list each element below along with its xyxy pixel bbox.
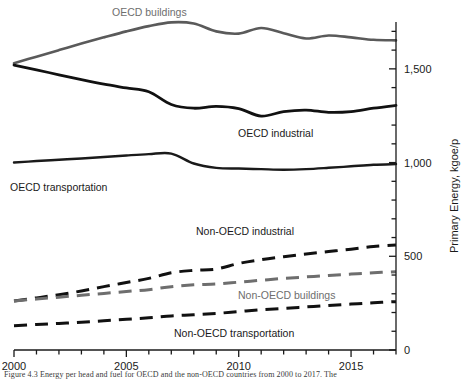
y-axis-tick-label: 0: [404, 344, 410, 356]
series-annotation: OECD transportation: [10, 181, 108, 193]
y-axis-tick-label: 1,000: [404, 157, 432, 169]
series-annotation: Non-OECD transportation: [174, 327, 294, 339]
line-chart: 05001,0001,5002000200520102015 OECD buil…: [0, 0, 468, 379]
series-line-non-oecd-transportation: [14, 302, 396, 326]
series-annotation: Non-OECD industrial: [196, 225, 294, 237]
series-annotation: OECD industrial: [238, 127, 313, 139]
annotation-layer: OECD buildingsOECD industrialOECD transp…: [10, 6, 335, 339]
y-axis-tick-label: 1,500: [404, 63, 432, 75]
series-layer: [14, 22, 396, 325]
series-line-oecd-buildings: [14, 22, 396, 63]
series-annotation: OECD buildings: [112, 6, 187, 18]
series-line-oecd-transportation: [14, 153, 396, 170]
series-annotation: Non-OECD buildings: [238, 289, 335, 301]
series-line-non-oecd-buildings: [14, 272, 396, 301]
series-line-oecd-industrial: [14, 65, 396, 116]
figure-caption: Figure 4.3 Energy per head and fuel for …: [4, 370, 464, 379]
axis-layer: 05001,0001,5002000200520102015: [2, 22, 432, 372]
series-line-non-oecd-industrial: [14, 245, 396, 301]
y-axis-title: Primary Energy, kgoe/p: [448, 139, 460, 253]
y-axis-tick-label: 500: [404, 250, 422, 262]
chart-figure: 05001,0001,5002000200520102015 OECD buil…: [0, 0, 468, 379]
